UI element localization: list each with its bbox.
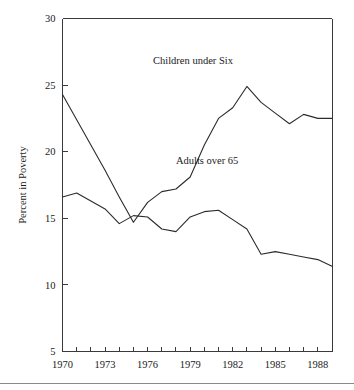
x-tick-label: 1979: [180, 359, 201, 370]
y-axis-title-group: Percent in Poverty: [17, 145, 28, 223]
y-tick-label: 30: [45, 13, 56, 24]
x-tick-label: 1976: [137, 359, 158, 370]
series-lines: [63, 86, 333, 266]
y-tick-label: 5: [50, 346, 55, 357]
y-tick-label: 20: [45, 146, 56, 157]
x-tick-label: 1988: [307, 359, 328, 370]
x-tick-label: 1985: [265, 359, 286, 370]
x-tick-label: 1970: [52, 359, 73, 370]
chart-figure: 51015202530 1970197319761979198219851988…: [0, 0, 354, 390]
series-annotations: Children under SixAdults over 65: [153, 55, 238, 166]
series-annotation: Adults over 65: [176, 155, 238, 166]
y-axis-tick-labels: 51015202530: [45, 13, 56, 357]
y-tick-label: 25: [45, 80, 56, 91]
series-line-adults-over-65: [63, 193, 333, 266]
x-tick-label: 1982: [222, 359, 243, 370]
y-axis-title: Percent in Poverty: [17, 145, 28, 223]
y-axis-ticks: [63, 19, 68, 352]
y-tick-label: 15: [45, 213, 56, 224]
x-axis-ticks: [63, 347, 333, 352]
footer-divider: [0, 383, 354, 384]
series-annotation: Children under Six: [153, 55, 234, 66]
y-tick-label: 10: [45, 280, 56, 291]
x-axis-tick-labels: 1970197319761979198219851988: [52, 359, 328, 370]
plot-frame: [63, 19, 333, 352]
x-tick-label: 1973: [95, 359, 116, 370]
poverty-line-chart-svg: 51015202530 1970197319761979198219851988…: [0, 0, 354, 390]
